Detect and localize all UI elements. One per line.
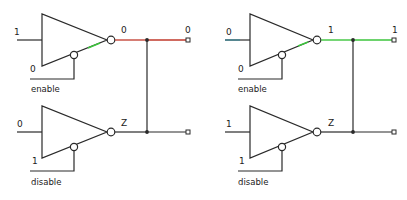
left-top-inversion-bubble-icon — [107, 36, 115, 44]
left-top-control-value: 0 — [30, 64, 36, 74]
left-bus: 0 — [145, 25, 191, 134]
left-bottom-inversion-bubble-icon — [107, 128, 115, 136]
right-bottom-control-bubble-icon — [278, 143, 285, 150]
right-bus-output-label: 1 — [392, 25, 398, 35]
left-bottom-control-value: 1 — [32, 156, 38, 166]
right-bottom-control-value: 1 — [239, 156, 245, 166]
right-bus-top-terminal-icon — [392, 38, 396, 42]
left-bus-bottom-terminal-icon — [186, 130, 190, 134]
tristate-diagram: 1 0 enable 0 0 1 disable Z 0 — [0, 0, 407, 200]
left-bottom-control-bubble-icon — [70, 143, 77, 150]
right-top-control-value: 0 — [238, 64, 244, 74]
right-bottom-control-label: disable — [238, 177, 268, 187]
left-bottom-control-label: disable — [31, 177, 61, 187]
left-bus-top-terminal-icon — [186, 38, 190, 42]
right-circuit: 0 0 enable 1 1 1 disable Z 1 — [225, 14, 398, 187]
left-top-output-label: 0 — [121, 25, 127, 35]
right-top-inverter-gate: 0 0 enable 1 — [225, 14, 353, 94]
right-bus-bottom-junction-dot — [351, 130, 355, 134]
right-bus: 1 — [351, 25, 398, 134]
right-bottom-output-label: Z — [328, 118, 334, 128]
right-top-inversion-bubble-icon — [313, 36, 321, 44]
left-circuit: 1 0 enable 0 0 1 disable Z 0 — [14, 14, 191, 187]
left-bottom-input-label: 0 — [17, 119, 23, 129]
right-top-control-bubble-icon — [278, 51, 285, 58]
left-top-inverter-gate: 1 0 enable 0 — [14, 14, 147, 94]
left-top-input-label: 1 — [14, 27, 20, 37]
right-bottom-inverter-gate: 1 1 disable Z — [225, 106, 353, 187]
left-bottom-inverter-gate: 0 1 disable Z — [17, 106, 147, 187]
right-top-input-label: 0 — [226, 27, 232, 37]
right-bus-bottom-terminal-icon — [392, 130, 396, 134]
left-top-control-label: enable — [31, 84, 60, 94]
right-bus-top-junction-dot — [351, 38, 355, 42]
right-bottom-inversion-bubble-icon — [313, 128, 321, 136]
right-top-output-label: 1 — [328, 25, 334, 35]
left-bottom-output-label: Z — [121, 118, 127, 128]
left-top-control-bubble-icon — [70, 51, 77, 58]
right-bottom-input-label: 1 — [226, 119, 232, 129]
right-top-control-label: enable — [238, 84, 267, 94]
left-bus-output-label: 0 — [185, 25, 191, 35]
left-bus-top-junction-dot — [145, 38, 149, 42]
left-bus-bottom-junction-dot — [145, 130, 149, 134]
